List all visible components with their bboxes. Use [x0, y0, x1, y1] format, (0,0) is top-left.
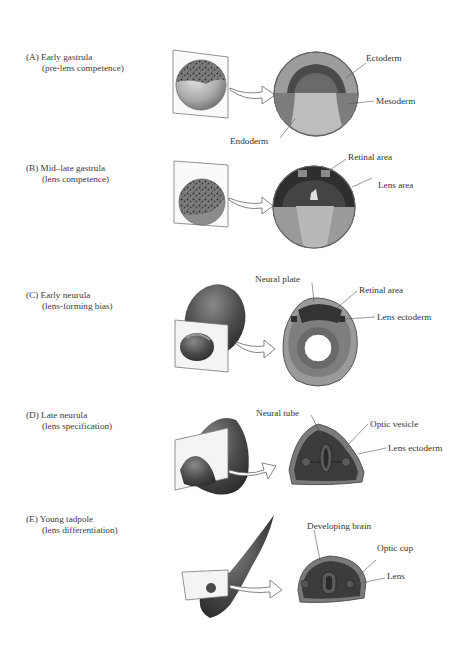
callout-lens-ectoderm-d: Lens ectoderm: [388, 443, 442, 453]
panel-b-cross-section: [272, 159, 372, 252]
callout-optic-vesicle: Optic vesicle: [370, 419, 418, 429]
callout-endoderm: Endoderm: [230, 136, 268, 146]
panel-e-tadpole: [182, 515, 274, 618]
panel-e-cross-section: [298, 530, 385, 603]
panel-e-phase: (lens differentiation): [26, 525, 118, 536]
panel-a-cross-section: [270, 52, 374, 138]
callout-ectoderm: Ectoderm: [366, 53, 402, 63]
callout-developing-brain: Developing brain: [307, 521, 371, 531]
panel-e-label: (E) Young tadpole (lens differentiation): [26, 514, 118, 536]
callout-retinal-area-b: Retinal area: [348, 152, 392, 162]
callout-optic-cup: Optic cup: [377, 543, 413, 553]
callout-retinal-area-c: Retinal area: [359, 285, 403, 295]
callout-lens: Lens: [387, 571, 405, 581]
panel-a-arrow: [230, 86, 275, 104]
panel-e-stage: (E) Young tadpole: [26, 514, 93, 524]
panel-a-embryo: [170, 50, 232, 118]
panel-c-cross-section: [283, 283, 375, 386]
panel-b-label: (B) Mid–late gastrula (lens competence): [26, 163, 109, 185]
callout-lens-area: Lens area: [378, 180, 413, 190]
panel-d-label: (D) Late neurula (lens specification): [26, 410, 112, 432]
panel-c-arrow: [236, 340, 275, 358]
panel-b-phase: (lens competence): [26, 174, 109, 185]
panel-a-label: (A) Early gastrula (pre-lens competence): [26, 52, 124, 74]
panel-c-label: (C) Early neurula (lens-forming bias): [26, 290, 113, 312]
panel-a-stage: (A) Early gastrula: [26, 52, 92, 62]
panel-d-embryo: [175, 418, 249, 495]
panel-d-stage: (D) Late neurula: [26, 410, 87, 420]
panel-b-stage: (B) Mid–late gastrula: [26, 163, 105, 173]
panel-d-phase: (lens specification): [26, 421, 112, 432]
panel-b-arrow: [229, 197, 273, 214]
callout-neural-tube: Neural tube: [256, 408, 299, 418]
panel-c-embryo: [175, 277, 253, 372]
panel-c-phase: (lens-forming bias): [26, 301, 113, 312]
callout-neural-plate: Neural plate: [255, 274, 300, 284]
panel-b-embryo: [174, 161, 228, 227]
panel-c-stage: (C) Early neurula: [26, 290, 90, 300]
callout-mesoderm: Mesoderm: [376, 96, 415, 106]
callout-lens-ectoderm-c: Lens ectoderm: [377, 312, 431, 322]
panel-a-phase: (pre-lens competence): [26, 63, 124, 74]
